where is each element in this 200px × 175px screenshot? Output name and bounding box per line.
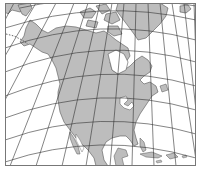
north-america-map	[0, 0, 200, 175]
map-container	[0, 0, 200, 175]
